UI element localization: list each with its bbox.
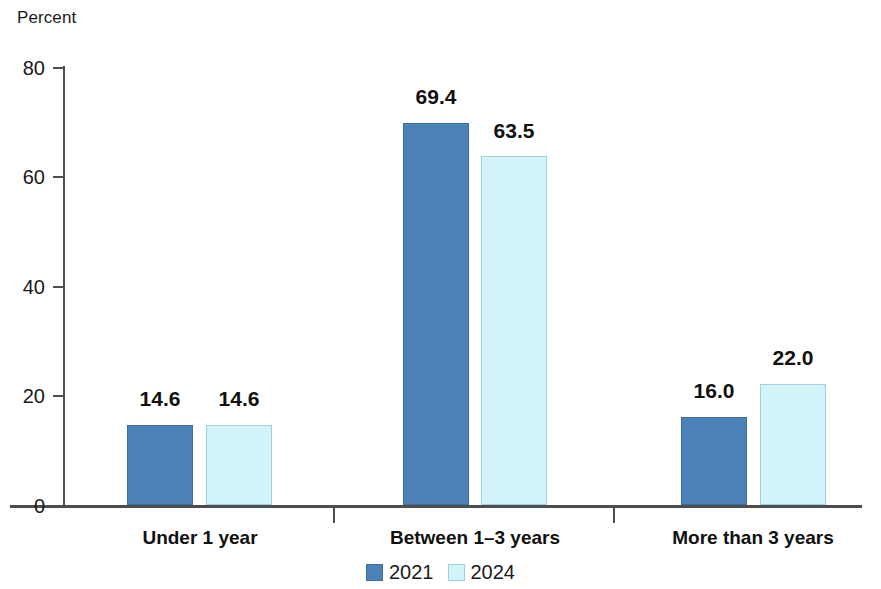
y-tick-label-60: 60: [1, 167, 45, 187]
y-axis-title: Percent: [17, 8, 76, 28]
y-tick-0: [53, 505, 65, 507]
y-tick-label-20: 20: [1, 386, 45, 406]
bar-value-2024-between-1-3-years: 63.5: [474, 120, 554, 141]
x-category-label-between-1-3-years: Between 1–3 years: [345, 527, 605, 549]
bar-2024-between-1-3-years[interactable]: [481, 156, 547, 505]
bar-value-2021-under-1-year: 14.6: [120, 388, 200, 409]
bar-value-2024-more-than-3-years: 22.0: [753, 347, 833, 368]
chart-legend: 2021 2024: [0, 562, 881, 582]
y-tick-20: [53, 395, 65, 397]
x-axis-line: [10, 505, 862, 508]
legend-swatch-2024-icon: [448, 564, 465, 581]
y-tick-label-80: 80: [1, 58, 45, 78]
bar-value-2021-more-than-3-years: 16.0: [674, 380, 754, 401]
y-tick-80: [53, 67, 65, 69]
y-tick-label-0: 0: [1, 496, 45, 516]
bar-2024-under-1-year[interactable]: [206, 425, 272, 505]
x-group-separator-1: [333, 508, 335, 523]
y-tick-60: [53, 176, 65, 178]
bar-2021-under-1-year[interactable]: [127, 425, 193, 505]
bar-chart: Percent 80 60 40 20 0 14.6 14.6 Under 1 …: [0, 0, 881, 589]
x-category-label-under-1-year: Under 1 year: [70, 527, 330, 549]
legend-label-2021: 2021: [389, 562, 434, 582]
legend-item-2024[interactable]: 2024: [448, 562, 516, 582]
bar-2024-more-than-3-years[interactable]: [760, 384, 826, 505]
legend-label-2024: 2024: [471, 562, 516, 582]
y-tick-40: [53, 286, 65, 288]
bar-value-2024-under-1-year: 14.6: [199, 388, 279, 409]
x-group-separator-2: [613, 508, 615, 523]
legend-swatch-2021-icon: [366, 564, 383, 581]
bar-value-2021-between-1-3-years: 69.4: [396, 86, 476, 107]
legend-item-2021[interactable]: 2021: [366, 562, 434, 582]
bar-2021-between-1-3-years[interactable]: [403, 123, 469, 505]
x-category-label-more-than-3-years: More than 3 years: [623, 527, 881, 549]
y-tick-label-40: 40: [1, 277, 45, 297]
bar-2021-more-than-3-years[interactable]: [681, 417, 747, 505]
